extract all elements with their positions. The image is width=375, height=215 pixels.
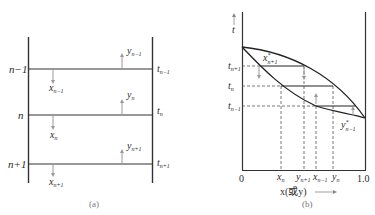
liquid-label: xn bbox=[49, 129, 57, 141]
temperature-label: tn+1 bbox=[157, 157, 170, 169]
panel-a-column-diagram: n−1 yn−1 xn−1 tn−1 n yn xn tn n+1 yn+1 x… bbox=[8, 37, 170, 209]
temp-level-label: tn bbox=[228, 80, 234, 92]
stage-n-plus-1: n+1 yn+1 xn+1 tn+1 bbox=[8, 140, 170, 188]
x-tick-start: 0 bbox=[239, 173, 244, 184]
panel-b-txy-diagram: t tn+1 tn tn−1 x*n+1 y*n−1 bbox=[228, 12, 370, 209]
x-tick-end: 1.0 bbox=[357, 173, 370, 184]
temp-level-label: tn+1 bbox=[228, 60, 241, 72]
panel-b-caption: (b) bbox=[302, 199, 313, 209]
x-marker-label: xn bbox=[276, 171, 284, 183]
x-marker-label: xn−1 bbox=[312, 171, 328, 183]
bubble-point-curve bbox=[242, 47, 365, 118]
liquid-label: xn−1 bbox=[48, 82, 64, 94]
stage-n-minus-1: n−1 yn−1 xn−1 tn−1 bbox=[9, 45, 170, 94]
stage-label: n−1 bbox=[9, 63, 27, 75]
temperature-label: tn bbox=[157, 105, 163, 117]
panel-a-caption: (a) bbox=[89, 199, 99, 209]
x-marker-label: yn+1 bbox=[295, 171, 311, 183]
y-axis-label: t bbox=[232, 24, 235, 35]
figure-canvas: n−1 yn−1 xn−1 tn−1 n yn xn tn n+1 yn+1 x… bbox=[0, 0, 375, 215]
temp-level-label: tn−1 bbox=[228, 100, 241, 112]
vapor-label: yn+1 bbox=[126, 140, 142, 152]
dashed-guides bbox=[242, 66, 333, 170]
stage-label: n bbox=[18, 109, 24, 121]
x-axis-label: x(或y) bbox=[280, 186, 307, 198]
x-marker-label: yn bbox=[331, 171, 339, 183]
liquid-label: xn+1 bbox=[48, 176, 64, 188]
temperature-label: tn−1 bbox=[157, 63, 170, 75]
vapor-label: yn−1 bbox=[126, 45, 142, 57]
dew-point-curve bbox=[242, 47, 365, 118]
vapor-label: yn bbox=[126, 89, 134, 101]
stage-label: n+1 bbox=[8, 158, 26, 170]
curve-label-y-star: y*n−1 bbox=[340, 119, 356, 132]
stage-n: n yn xn tn bbox=[18, 89, 163, 141]
